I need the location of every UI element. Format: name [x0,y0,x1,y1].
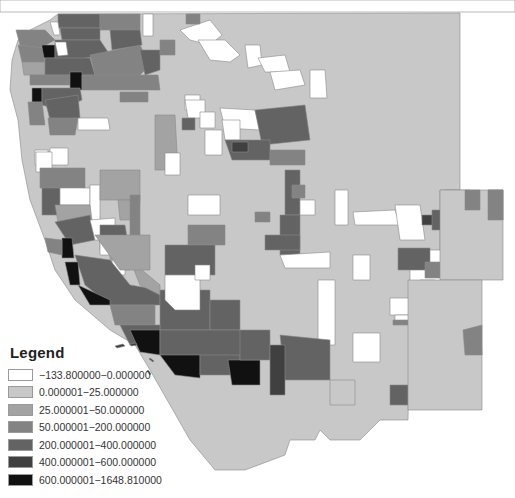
legend-item: 400.000001−600.000000 [8,454,208,472]
legend-item: −133.800000−0.000000 [8,366,208,384]
legend-swatch [8,386,33,398]
legend-swatch [8,369,33,381]
legend-label: 0.000001−25.000000 [39,386,139,398]
legend-label: 600.000001−1648.810000 [39,474,162,486]
legend-label: 25.000001−50.000000 [39,404,144,416]
legend-label: −133.800000−0.000000 [39,369,151,381]
legend-swatch [8,421,33,433]
legend-title: Legend [10,344,208,361]
legend-swatch [8,439,33,451]
legend-item: 25.000001−50.000000 [8,401,208,419]
legend-label: 400.000001−600.000000 [39,456,156,468]
legend-swatch [8,474,33,486]
map-legend: Legend −133.800000−0.000000 0.000001−25.… [8,344,208,489]
legend-item: 600.000001−1648.810000 [8,471,208,489]
legend-swatch [8,404,33,416]
legend-item: 0.000001−25.000000 [8,384,208,402]
legend-swatch [8,456,33,468]
legend-item: 50.000001−200.000000 [8,419,208,437]
legend-label: 200.000001−400.000000 [39,439,156,451]
legend-label: 50.000001−200.000000 [39,421,150,433]
legend-item: 200.000001−400.000000 [8,436,208,454]
